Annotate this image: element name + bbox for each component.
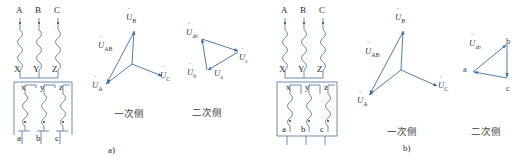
figure-root: A B C X Y Z x y z a b c xyxy=(0,0,525,166)
primary-side-caption-a: 一次侧 xyxy=(114,106,144,120)
secondary-phasor-diagram-b xyxy=(459,22,525,102)
terminal-label-y: y xyxy=(305,82,310,92)
terminal-label-B: B xyxy=(35,5,41,15)
subfigure-b: A B C X Y Z x y z a b c xyxy=(263,0,525,166)
primary-phasor-diagram-a xyxy=(92,12,174,100)
primary-side-caption-b: 一次侧 xyxy=(387,124,417,138)
circuit-diagram-b xyxy=(263,0,363,150)
subfigure-a: A B C X Y Z x y z a b c xyxy=(0,0,262,166)
terminal-label-A: A xyxy=(16,5,23,15)
terminal-label-Z: Z xyxy=(317,64,323,74)
terminal-label-C: C xyxy=(54,5,60,15)
primary-phasor-diagram-b xyxy=(357,12,449,112)
terminal-label-z: z xyxy=(59,82,63,92)
terminal-label-x: x xyxy=(21,82,26,92)
terminal-label-X: X xyxy=(279,64,286,74)
phasor-label-Ub-a: ̇Ub xyxy=(187,67,196,79)
terminal-label-Y: Y xyxy=(298,64,305,74)
terminal-label-x: x xyxy=(286,82,291,92)
terminal-label-a: a xyxy=(17,133,21,143)
secondary-side-caption-a: 二次侧 xyxy=(192,105,222,119)
circuit-diagram-a xyxy=(0,0,100,150)
terminal-label-b: b xyxy=(36,133,41,143)
terminal-label-C: C xyxy=(319,5,325,15)
phasor-vertex-label-c: c xyxy=(506,83,510,93)
terminal-label-z: z xyxy=(324,82,328,92)
phasor-label-Uab-b: ̇Uab xyxy=(469,38,481,50)
phasor-label-Ua-a: ̇Ua xyxy=(214,68,223,80)
phasor-label-UAB-b: ̇UAB xyxy=(365,46,379,58)
terminal-label-A: A xyxy=(281,5,288,15)
phasor-vertex-label-b: b xyxy=(506,36,510,46)
terminal-label-b: b xyxy=(301,124,306,134)
phasor-label-UAB-a: ̇UAB xyxy=(98,40,112,52)
terminal-label-c: c xyxy=(55,133,59,143)
terminal-label-y: y xyxy=(40,82,45,92)
phasor-label-Uc-a: ̇Uc xyxy=(239,52,248,64)
terminal-label-c: c xyxy=(320,124,324,134)
phasor-label-UB-b: ̇UB xyxy=(395,12,405,24)
terminal-label-B: B xyxy=(300,5,306,15)
subfigure-label-b: b) xyxy=(403,143,411,153)
phasor-label-UC-a: ̇UC xyxy=(160,70,170,82)
phasor-label-UB-a: ̇UB xyxy=(126,12,136,24)
phasor-label-UC-b: ̇UC xyxy=(438,80,448,92)
terminal-label-a: a xyxy=(282,124,286,134)
phasor-label-UA-a: ̇UA xyxy=(92,80,102,92)
terminal-label-X: X xyxy=(14,64,21,74)
subfigure-label-a: a) xyxy=(108,145,115,155)
terminal-label-Y: Y xyxy=(33,64,40,74)
terminal-label-Z: Z xyxy=(52,64,58,74)
phasor-label-Uab-a: ̇Uab xyxy=(186,27,198,39)
phasor-label-UA-b: ̇UA xyxy=(357,95,367,107)
phasor-vertex-label-a: a xyxy=(463,64,467,74)
secondary-side-caption-b: 二次侧 xyxy=(471,124,501,138)
